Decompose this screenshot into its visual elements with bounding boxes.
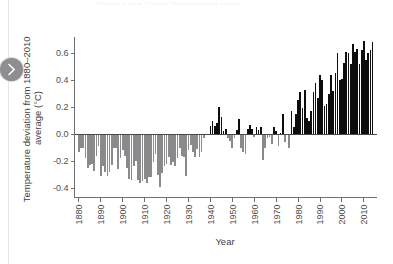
bar-1934 (196, 134, 198, 149)
bar-1904 (131, 134, 133, 180)
figure-page: Global Land-Ocean Temperature Index -0.4… (0, 0, 393, 264)
bar-1926 (179, 134, 181, 147)
bar-1901 (124, 134, 126, 156)
bar-2004 (350, 64, 352, 134)
x-tick-label: 1910 (140, 205, 150, 225)
bar-1924 (174, 134, 176, 166)
bar-2014 (372, 42, 374, 134)
bar-2006 (354, 52, 356, 134)
x-tick-label: 1970 (272, 205, 282, 225)
bar-1954 (240, 134, 242, 147)
bar-1990 (319, 75, 321, 134)
bar-2012 (367, 53, 369, 134)
bar-2003 (348, 53, 350, 134)
x-axis-ticks: 1880189019001910192019301940195019601970… (74, 198, 369, 225)
bar-2005 (352, 44, 354, 134)
bar-1943 (216, 123, 218, 134)
bar-1969 (273, 127, 275, 134)
bar-1930 (188, 134, 190, 150)
x-tick-label: 1940 (206, 205, 216, 225)
x-tick-label: 1960 (250, 205, 260, 225)
bar-1932 (192, 134, 194, 152)
bar-1991 (321, 80, 323, 134)
bar-2001 (343, 63, 345, 134)
bar-1945 (221, 117, 223, 135)
bar-1994 (328, 94, 330, 134)
bar-1957 (247, 129, 249, 134)
bar-1880 (78, 134, 80, 152)
bar-1882 (82, 134, 84, 147)
x-tick-label: 2010 (359, 205, 369, 225)
bar-1884 (87, 134, 89, 168)
bar-1992 (324, 106, 326, 134)
bar-1937 (203, 134, 205, 138)
bar-1909 (142, 134, 144, 181)
x-tick-label: 1880 (74, 205, 84, 225)
y-tick-label: -0.4 (53, 183, 69, 193)
x-tick-label: 1920 (162, 205, 172, 225)
bar-1935 (199, 134, 201, 157)
x-tick-label: 1980 (294, 205, 304, 225)
bar-1947 (225, 129, 227, 134)
bar-1949 (229, 134, 231, 141)
bar-1973 (282, 114, 284, 134)
bar-1941 (212, 121, 214, 134)
bar-1927 (181, 134, 183, 156)
bar-1897 (115, 134, 117, 147)
bar-1944 (218, 107, 220, 134)
y-tick-label: 0.0 (56, 129, 69, 139)
x-tick-label: 1900 (118, 205, 128, 225)
bar-1890 (100, 134, 102, 176)
bar-1929 (185, 134, 187, 176)
bar-1993 (326, 104, 328, 134)
bar-1998 (337, 53, 339, 134)
bar-1982 (302, 108, 304, 134)
bar-1977 (291, 111, 293, 134)
bar-1979 (295, 114, 297, 134)
bar-1895 (111, 134, 113, 165)
bar-series (78, 41, 373, 187)
bar-1965 (264, 134, 266, 147)
bar-1886 (91, 134, 93, 164)
bar-1955 (242, 134, 244, 152)
bar-1985 (308, 121, 310, 134)
bar-1902 (126, 134, 128, 168)
bar-1983 (304, 90, 306, 135)
bar-1971 (278, 134, 280, 146)
bar-1905 (133, 134, 135, 166)
bar-1959 (251, 129, 253, 134)
bar-1916 (157, 134, 159, 174)
bar-1980 (297, 100, 299, 134)
y-axis-ticks: -0.4-0.20.00.20.40.6 (53, 48, 75, 193)
bar-1889 (98, 134, 100, 146)
bar-1956 (245, 134, 247, 154)
x-tick-label: 1990 (315, 205, 325, 225)
bar-1903 (128, 134, 130, 179)
bar-1898 (117, 134, 119, 169)
bar-1999 (339, 80, 341, 134)
bar-1915 (155, 134, 157, 154)
y-tick-label: -0.2 (53, 156, 69, 166)
bar-1981 (299, 92, 301, 134)
bar-1996 (332, 91, 334, 134)
bar-1931 (190, 134, 192, 145)
bar-2000 (341, 79, 343, 134)
bar-1997 (335, 73, 337, 134)
bar-1976 (288, 134, 290, 147)
bar-1925 (177, 134, 179, 158)
bar-1933 (194, 134, 196, 157)
bar-1987 (313, 92, 315, 134)
bar-1911 (146, 134, 148, 183)
bar-1952 (236, 130, 238, 134)
bar-2008 (359, 64, 361, 134)
y-tick-label: 0.6 (56, 48, 69, 58)
bar-1962 (258, 130, 260, 134)
bar-1922 (170, 134, 172, 165)
bar-1914 (153, 134, 155, 162)
bar-2002 (345, 52, 347, 134)
bar-2009 (361, 50, 363, 134)
bar-1942 (214, 126, 216, 134)
bar-1995 (330, 75, 332, 134)
bar-1896 (113, 134, 115, 147)
bar-1928 (183, 134, 185, 157)
